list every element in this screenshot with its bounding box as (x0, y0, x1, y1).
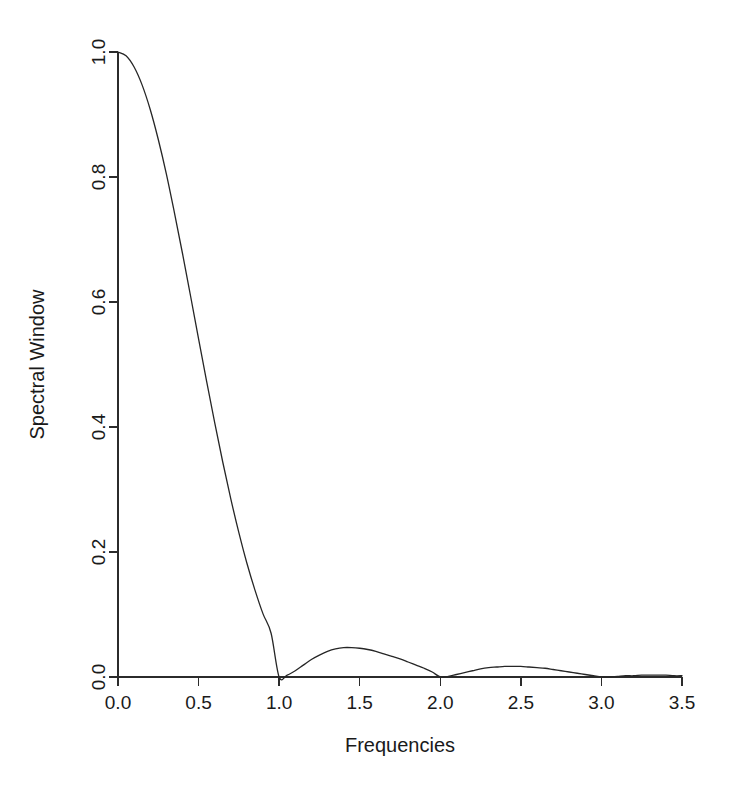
x-tick-label: 2.5 (508, 692, 534, 713)
y-tick-label: 0.8 (88, 164, 109, 190)
x-tick-label: 0.5 (185, 692, 211, 713)
y-tick-label: 1.0 (88, 39, 109, 65)
x-tick-label: 0.0 (105, 692, 131, 713)
x-tick-label: 1.0 (266, 692, 292, 713)
y-tick-label: 0.0 (88, 664, 109, 690)
plot-canvas: 0.00.51.01.52.02.53.03.5 0.00.20.40.60.8… (0, 0, 730, 793)
y-axis-title: Spectral Window (26, 289, 48, 440)
spectral-window-figure: 0.00.51.01.52.02.53.03.5 0.00.20.40.60.8… (0, 0, 730, 793)
y-tick-label: 0.2 (88, 539, 109, 565)
x-tick-label: 1.5 (347, 692, 373, 713)
x-tick-label: 3.5 (669, 692, 695, 713)
x-tick-label: 2.0 (427, 692, 453, 713)
x-tick-label: 3.0 (588, 692, 614, 713)
x-axis-title: Frequencies (345, 734, 455, 756)
y-tick-label: 0.4 (88, 413, 109, 440)
y-tick-label: 0.6 (88, 289, 109, 315)
figure-background (0, 0, 730, 793)
